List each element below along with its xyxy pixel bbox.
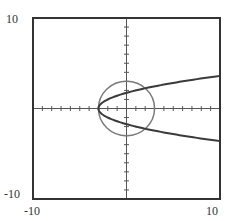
x-min-label: -10 [24, 204, 40, 218]
graph-plot: 10 -10 -10 10 [0, 0, 230, 221]
y-min-label: -10 [4, 187, 20, 201]
axes [33, 18, 220, 199]
x-max-label: 10 [206, 204, 218, 218]
y-max-label: 10 [6, 12, 18, 26]
